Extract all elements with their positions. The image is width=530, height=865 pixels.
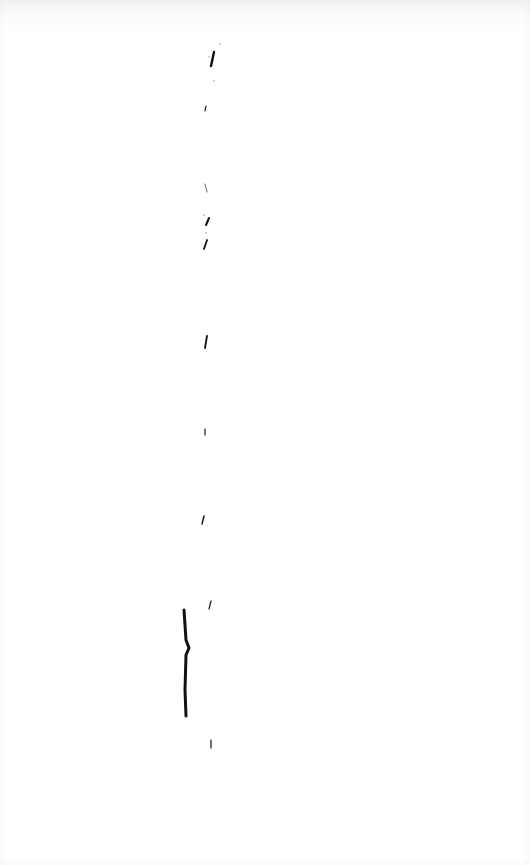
speck bbox=[219, 43, 221, 45]
ink-mark bbox=[209, 601, 211, 609]
ink-mark bbox=[202, 516, 204, 524]
ink-marks bbox=[0, 0, 530, 865]
ink-mark bbox=[211, 52, 214, 66]
ink-mark bbox=[205, 106, 206, 111]
speck bbox=[208, 56, 210, 58]
ink-mark bbox=[205, 184, 207, 192]
ink-mark bbox=[205, 336, 207, 348]
speck bbox=[205, 232, 207, 234]
scanned-page: Mostly blank scanned page with faint sca… bbox=[0, 0, 530, 865]
ink-mark bbox=[206, 218, 209, 225]
ink-mark bbox=[204, 240, 207, 249]
ink-mark-long-stroke bbox=[184, 610, 189, 716]
speck bbox=[213, 80, 215, 82]
speck bbox=[203, 214, 205, 216]
